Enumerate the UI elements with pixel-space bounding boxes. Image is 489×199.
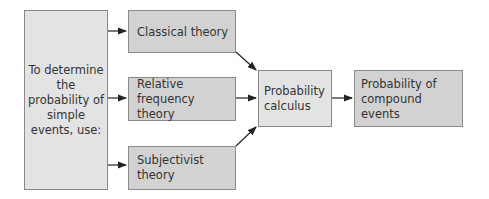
- arrow-classical-calculus: [236, 52, 256, 70]
- relative-frequency-theory-box: Relative frequency theory: [128, 77, 236, 121]
- compound-events-box: Probability of compound events: [354, 70, 463, 127]
- intro-label: To determine the probability of simple e…: [27, 63, 105, 138]
- subjectivist-theory-label: Subjectivist theory: [137, 153, 231, 183]
- classical-theory-box: Classical theory: [128, 10, 236, 53]
- classical-theory-label: Classical theory: [137, 24, 231, 39]
- compound-events-label: Probability of compound events: [361, 76, 458, 121]
- relative-frequency-theory-label: Relative frequency theory: [137, 77, 205, 122]
- probability-calculus-label: Probability calculus: [264, 84, 327, 114]
- subjectivist-theory-box: Subjectivist theory: [128, 146, 236, 190]
- probability-calculus-box: Probability calculus: [258, 70, 332, 127]
- arrow-subjectivist-calculus: [236, 127, 256, 146]
- intro-box: To determine the probability of simple e…: [24, 10, 108, 190]
